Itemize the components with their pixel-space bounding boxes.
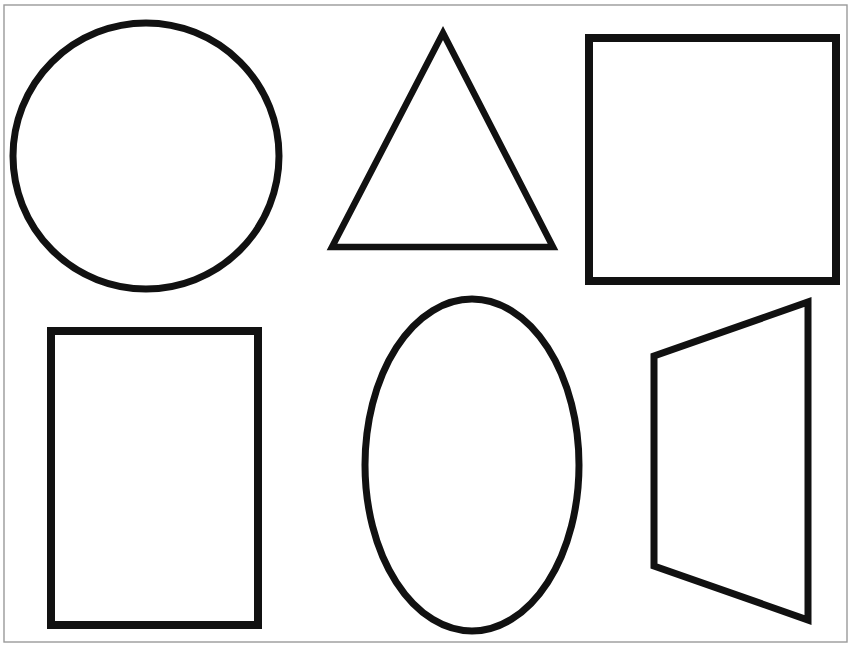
shapes-drawing-area: [0, 0, 854, 653]
triangle-shape[interactable]: [332, 33, 553, 247]
ellipse-shape[interactable]: [365, 299, 579, 631]
square-shape[interactable]: [589, 38, 836, 281]
trapezoid-shape[interactable]: [654, 302, 808, 620]
shapes-worksheet-canvas: Basic Shapes Worksheet: [0, 0, 854, 653]
page-border-frame: [4, 5, 847, 642]
circle-shape[interactable]: [13, 23, 279, 289]
rectangle-shape[interactable]: [51, 331, 258, 625]
